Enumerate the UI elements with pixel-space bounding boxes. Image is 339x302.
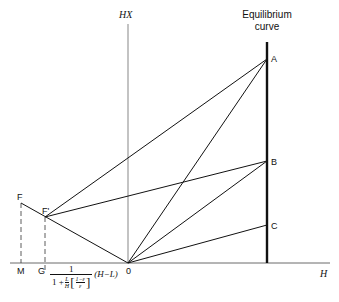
formula-denominator: 1 + L H [ 1−ε ε ]: [50, 274, 92, 289]
formula-eps: ε: [79, 283, 81, 289]
point-A-label: A: [271, 54, 277, 64]
construction-lines: [21, 59, 267, 263]
formula-suffix: (H−L): [94, 269, 118, 279]
point-F-label: F: [17, 192, 23, 202]
line-F-O: [21, 203, 128, 263]
diagram-canvas: HX H Equilibrium curve A B C F F' M G 0: [0, 0, 339, 302]
formula-one-minus-eps: 1−ε: [76, 276, 85, 283]
line-O-C: [128, 225, 267, 263]
line-Fp-B: [45, 161, 267, 217]
formula-one-plus: 1 +: [52, 277, 64, 288]
line-Fp-A: [45, 59, 267, 217]
equilibrium-label-2: curve: [255, 21, 280, 32]
point-M-label: M: [17, 266, 25, 276]
hx-axis-label: HX: [118, 9, 133, 20]
formula-fraction: 1 1 + L H [ 1−ε ε ]: [50, 264, 92, 289]
formula-H: H: [65, 283, 69, 289]
point-Fprime-label: F': [42, 206, 49, 216]
origin-label: 0: [126, 266, 131, 276]
h-axis-label: H: [319, 268, 328, 279]
formula-L-over-H: L H: [65, 276, 69, 289]
line-O-A: [128, 59, 267, 263]
formula-bracket-open: [: [70, 277, 74, 288]
formula-epsilon-fraction: 1−ε ε: [76, 276, 85, 289]
point-G-label: G: [38, 266, 45, 276]
line-O-B: [128, 161, 267, 263]
formula-bracket-close: ]: [86, 277, 90, 288]
formula-L: L: [65, 276, 68, 283]
equilibrium-label-1: Equilibrium: [242, 9, 291, 20]
distance-formula: 1 1 + L H [ 1−ε ε ] (H−L): [50, 264, 118, 289]
point-C-label: C: [271, 221, 278, 231]
formula-numerator: 1: [67, 264, 76, 274]
point-B-label: B: [271, 157, 277, 167]
